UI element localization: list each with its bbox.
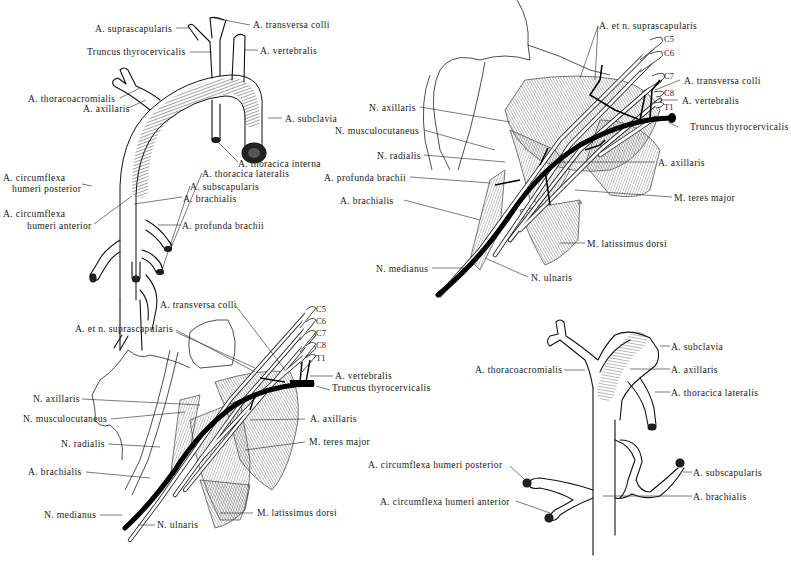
label-d-thoracoacromialis: A. thoracoacromialis: [475, 364, 562, 375]
label-d-thoracica-lateralis: A. thoracica lateralis: [671, 387, 758, 398]
label-d-subscapularis: A. subscapularis: [693, 467, 762, 478]
label-d-subclavia: A. subclavia: [671, 341, 723, 352]
figure-d-axillary-variant-schema: A. subclavia A. thoracoacromialis A. axi…: [0, 0, 791, 588]
label-d-brachialis: A. brachialis: [693, 491, 747, 502]
label-d-circumflexa-posterior: A. circumflexa humeri posterior: [368, 459, 502, 470]
label-d-circumflexa-anterior: A. circumflexa humeri anterior: [380, 496, 510, 507]
label-d-axillaris: A. axillaris: [671, 364, 718, 375]
